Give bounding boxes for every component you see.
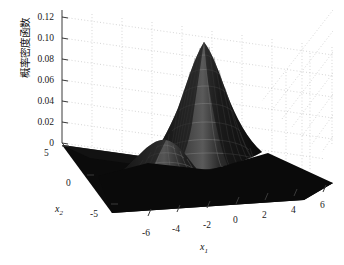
z-tick-marks	[62, 17, 68, 144]
plot-canvas	[0, 0, 344, 265]
figure-3d-surface-plot: 概率密度函数 0.12 0.10 0.08 0.06 0.04 0.02 0 5…	[0, 0, 344, 265]
